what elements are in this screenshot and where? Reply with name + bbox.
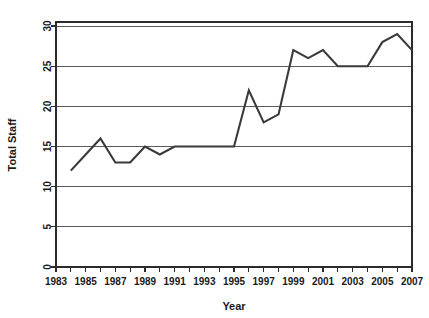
x-tick-label-2007: 2007 bbox=[401, 276, 424, 287]
x-tick-label-1989: 1989 bbox=[134, 276, 157, 287]
x-tick-label-1985: 1985 bbox=[75, 276, 98, 287]
x-tick-label-1997: 1997 bbox=[253, 276, 276, 287]
x-tick-label-2003: 2003 bbox=[342, 276, 365, 287]
x-tick-label-2005: 2005 bbox=[371, 276, 394, 287]
x-tick-label-2001: 2001 bbox=[312, 276, 335, 287]
y-tick-label-5: 5 bbox=[42, 224, 53, 230]
y-tick-label-10: 10 bbox=[42, 181, 53, 193]
x-tick-label-1987: 1987 bbox=[104, 276, 127, 287]
line-chart: 1983198519871989199119931995199719992001… bbox=[0, 0, 429, 318]
y-axis-title: Total Staff bbox=[6, 118, 18, 171]
x-tick-label-1999: 1999 bbox=[282, 276, 305, 287]
y-tick-label-20: 20 bbox=[42, 100, 53, 112]
y-tick-label-30: 30 bbox=[42, 20, 53, 32]
chart-background bbox=[0, 0, 429, 318]
chart-container: 1983198519871989199119931995199719992001… bbox=[0, 0, 429, 318]
y-tick-label-25: 25 bbox=[42, 60, 53, 72]
x-tick-label-1995: 1995 bbox=[223, 276, 246, 287]
x-tick-label-1983: 1983 bbox=[45, 276, 68, 287]
y-tick-label-15: 15 bbox=[42, 141, 53, 153]
y-tick-label-0: 0 bbox=[42, 264, 53, 270]
x-tick-label-1993: 1993 bbox=[193, 276, 216, 287]
x-axis-title: Year bbox=[222, 300, 246, 312]
x-tick-label-1991: 1991 bbox=[164, 276, 187, 287]
